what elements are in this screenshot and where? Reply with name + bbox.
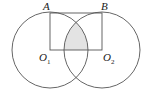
geometry-figure (0, 0, 141, 101)
label-b: B (101, 1, 108, 12)
label-o1: O1 (39, 52, 50, 66)
label-o2: O2 (103, 52, 114, 66)
shaded-region (50, 13, 102, 50)
label-a: A (43, 1, 50, 12)
